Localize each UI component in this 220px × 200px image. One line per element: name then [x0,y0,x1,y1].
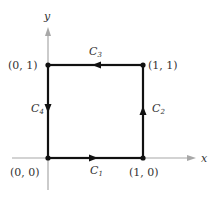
label-bottom-right: (1, 0) [129,166,159,179]
c1-right-arrow-icon [89,155,98,162]
vertex-top-left [45,62,50,67]
label-c2: C2 [152,102,165,116]
square-boundary [48,65,143,158]
x-axis-label: x [201,152,208,165]
label-c3: C3 [89,45,102,59]
x-axis-arrow-icon [187,155,196,161]
label-origin: (0, 0) [10,166,40,179]
label-c4: C4 [31,102,44,116]
vertex-top-right [140,62,145,67]
vertex-labels: (0, 0) (1, 0) (1, 1) (0, 1) [8,59,178,179]
c2-up-arrow-icon [140,106,147,115]
label-top-right: (1, 1) [148,59,178,72]
vertex-origin [45,155,50,160]
y-axis-arrow-icon [45,27,51,36]
y-axis-label: y [43,10,51,23]
square-path-diagram: x y (0, 0) (1, 0) (1, 1) (0, 1) C1 C2 C3… [0,0,220,200]
vertex-bottom-right [140,155,145,160]
label-c1: C1 [90,164,103,178]
axes: x y [12,10,208,190]
label-top-left: (0, 1) [8,59,38,72]
c4-down-arrow-icon [45,104,52,113]
closed-path [45,62,147,162]
c3-left-arrow-icon [92,62,101,69]
